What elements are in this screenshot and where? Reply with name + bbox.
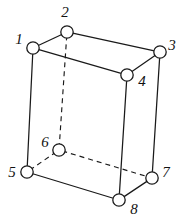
edge-5-8 <box>30 173 115 199</box>
edge-1-5 <box>27 51 33 168</box>
vertex-node-2 <box>61 26 73 38</box>
cuboid-diagram-canvas: 12345678 <box>0 0 177 221</box>
vertex-label-7: 7 <box>162 164 171 180</box>
edge-5-6-hidden <box>30 152 56 170</box>
vertex-node-3 <box>154 46 166 58</box>
vertex-label-8: 8 <box>130 201 138 217</box>
vertex-label-1: 1 <box>15 31 23 47</box>
vertex-label-3: 3 <box>167 37 176 53</box>
vertex-nodes-group <box>21 26 166 206</box>
edge-8-7 <box>122 180 149 198</box>
edge-4-1 <box>36 49 123 74</box>
vertex-node-8 <box>113 194 125 206</box>
vertex-node-7 <box>146 172 158 184</box>
edge-3-7 <box>152 55 160 174</box>
visible-edges-group <box>27 33 160 199</box>
vertex-label-6: 6 <box>41 134 49 150</box>
vertex-node-6 <box>53 144 65 156</box>
cuboid-figure: 12345678 <box>0 0 177 221</box>
edge-6-7-hidden <box>62 151 148 177</box>
vertex-label-4: 4 <box>138 73 146 89</box>
vertex-labels-group: 12345678 <box>8 4 176 217</box>
hidden-edges-group <box>30 35 149 177</box>
edge-1-2 <box>36 33 64 46</box>
edge-2-6-hidden <box>59 35 67 146</box>
vertex-label-5: 5 <box>8 164 16 180</box>
edge-3-4 <box>130 54 157 73</box>
vertex-node-4 <box>121 69 133 81</box>
vertex-label-2: 2 <box>61 4 69 20</box>
edge-4-8 <box>119 78 127 196</box>
vertex-node-1 <box>27 42 39 54</box>
vertex-node-5 <box>21 166 33 178</box>
edge-2-3 <box>70 33 156 52</box>
